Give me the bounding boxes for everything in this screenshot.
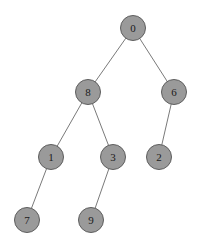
tree-node-label: 2 [156,152,162,163]
tree-node-3[interactable]: 3 [100,144,126,170]
tree-node-label: 7 [24,215,30,226]
tree-diagram-canvas: 08613279 [0,0,201,242]
tree-node-8[interactable]: 8 [75,79,101,105]
tree-node-9[interactable]: 9 [78,207,104,233]
tree-edge-0-8 [95,38,126,82]
tree-node-7[interactable]: 7 [14,207,40,233]
tree-node-label: 1 [48,152,54,163]
tree-edge-0-6 [139,38,167,82]
tree-node-label: 6 [171,87,177,98]
tree-node-6[interactable]: 6 [161,79,187,105]
tree-edge-8-3 [92,103,108,146]
tree-node-label: 0 [130,23,136,34]
tree-node-2[interactable]: 2 [146,144,172,170]
tree-edge-1-7 [31,168,46,209]
tree-node-label: 3 [110,152,116,163]
tree-edge-layer [0,0,201,242]
tree-edge-8-1 [57,102,82,146]
tree-node-label: 8 [85,87,91,98]
tree-node-0[interactable]: 0 [120,15,146,41]
tree-node-1[interactable]: 1 [38,144,64,170]
tree-edge-3-9 [95,168,109,208]
tree-node-label: 9 [88,215,94,226]
tree-edge-6-2 [162,104,172,146]
